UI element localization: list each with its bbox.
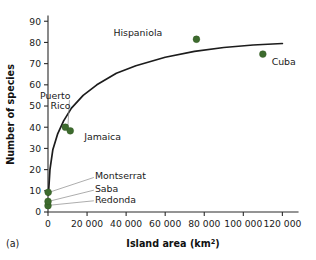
x-tick-label: 60 000 (149, 218, 181, 229)
point-label: Rico (50, 100, 70, 111)
point-label: Jamaica (83, 131, 121, 142)
leader-line (51, 190, 94, 201)
y-tick-label: 50 (29, 100, 41, 111)
x-tick-label: 0 (45, 218, 51, 229)
data-point (67, 127, 74, 134)
y-tick-label: 30 (29, 143, 41, 154)
y-tick-label: 0 (35, 206, 41, 217)
leader-line (51, 201, 94, 205)
chart-canvas: 0102030405060708090020 00040 00060 00080… (0, 0, 316, 260)
x-axis-title: Island area (km2) (126, 238, 219, 249)
point-label: Montserrat (95, 170, 146, 181)
x-tick-label: 20 000 (71, 218, 103, 229)
leader-line (51, 177, 94, 191)
y-tick-label: 90 (29, 16, 41, 27)
data-point (193, 36, 200, 43)
point-label: Saba (95, 183, 118, 194)
y-tick-label: 80 (29, 37, 41, 48)
x-tick-label: 80 000 (188, 218, 220, 229)
y-tick-label: 40 (29, 122, 41, 133)
x-tick-label: 120 000 (263, 218, 301, 229)
point-label: Cuba (272, 56, 296, 67)
point-label: Redonda (95, 194, 136, 205)
panel-label: (a) (6, 238, 19, 249)
y-tick-label: 20 (29, 164, 41, 175)
data-point (45, 198, 52, 205)
y-tick-label: 10 (29, 185, 41, 196)
y-tick-label: 60 (29, 79, 41, 90)
data-point (45, 189, 52, 196)
species-area-figure: 0102030405060708090020 00040 00060 00080… (0, 0, 316, 260)
x-tick-label: 40 000 (110, 218, 142, 229)
data-point (259, 51, 266, 58)
fit-curve (48, 43, 282, 195)
x-tick-label: 100 000 (224, 218, 262, 229)
y-axis-title: Number of species (5, 64, 16, 165)
point-label: Hispaniola (113, 27, 162, 38)
y-tick-label: 70 (29, 58, 41, 69)
